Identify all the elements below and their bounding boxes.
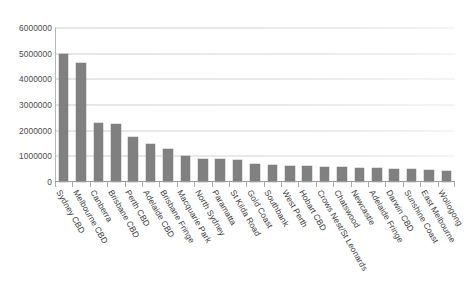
x-axis-tick [177, 182, 194, 187]
bar [198, 159, 208, 182]
x-axis-label-cell: East Melbourne [420, 188, 437, 303]
x-axis-label-cell: Sydney CBD [55, 188, 72, 303]
x-axis-label-cell: Melbourne CBD [72, 188, 89, 303]
x-axis-label-cell: Hobart CBD [298, 188, 315, 303]
bar [215, 159, 225, 182]
y-axis-line [55, 28, 56, 182]
x-axis-tick [264, 182, 281, 187]
bar [94, 123, 104, 182]
x-axis-label-cell: Adelaide CBD [142, 188, 159, 303]
x-axis-tick [438, 182, 455, 187]
x-axis-label-cell: Gold Coast [246, 188, 263, 303]
bar-slot [264, 28, 281, 182]
bar-slot [281, 28, 298, 182]
y-axis-tick-label: 6000000 [19, 23, 52, 33]
bar-slot [55, 28, 72, 182]
bar-slot [159, 28, 176, 182]
bar [337, 167, 347, 182]
bar [355, 168, 365, 182]
x-axis-tick [368, 182, 385, 187]
bar-slot [438, 28, 455, 182]
bar [320, 167, 330, 182]
x-axis-tick [212, 182, 229, 187]
x-axis-tick [351, 182, 368, 187]
x-axis-label-cell: Newcastle [351, 188, 368, 303]
bar-series [55, 28, 455, 182]
x-axis-tick [142, 182, 159, 187]
bar [285, 166, 295, 182]
bar [389, 169, 399, 182]
x-axis-tick [90, 182, 107, 187]
bar-slot [142, 28, 159, 182]
bar [163, 149, 173, 182]
x-axis-label-cell: Macquarie Park [177, 188, 194, 303]
y-axis-tick-label: 4000000 [19, 74, 52, 84]
y-axis-tick-label: 0 [47, 177, 52, 187]
bar-slot [351, 28, 368, 182]
x-axis-tick [316, 182, 333, 187]
x-axis-tick [281, 182, 298, 187]
x-axis-label-cell: West Perth [281, 188, 298, 303]
x-axis-tick [194, 182, 211, 187]
bar-chart: 6000000500000040000003000000200000010000… [0, 0, 475, 307]
x-axis-label-cell: Paramatta [212, 188, 229, 303]
x-axis-tick [298, 182, 315, 187]
x-axis-tick [55, 182, 72, 187]
x-axis-label-cell: Brisbane Fringe [159, 188, 176, 303]
x-axis-label-cell: St Kilda Road [229, 188, 246, 303]
x-axis-tick [125, 182, 142, 187]
bar [128, 137, 138, 182]
bar [181, 156, 191, 182]
bar-slot [90, 28, 107, 182]
x-axis-label-cell: Darwin CBD [385, 188, 402, 303]
bar [59, 54, 69, 182]
x-axis-tick [159, 182, 176, 187]
bar-slot [298, 28, 315, 182]
plot-area [55, 28, 455, 182]
x-axis-tick [333, 182, 350, 187]
x-axis-category-labels: Sydney CBDMelbourne CBDCanberraBrisbane … [55, 188, 455, 303]
bar [268, 165, 278, 182]
bar [146, 144, 156, 183]
y-axis-tick-label: 3000000 [19, 100, 52, 110]
x-axis-label-cell: Wollogong [438, 188, 455, 303]
y-axis-tick-label: 5000000 [19, 49, 52, 59]
x-axis-label-cell: Southbank [264, 188, 281, 303]
y-axis-tick-label: 1000000 [19, 151, 52, 161]
x-axis-tick [420, 182, 437, 187]
y-axis-tick-label: 2000000 [19, 126, 52, 136]
x-axis-label-cell: Canberra [90, 188, 107, 303]
bar-slot [212, 28, 229, 182]
bar [372, 168, 382, 182]
bar-slot [107, 28, 124, 182]
bar-slot [246, 28, 263, 182]
bar-slot [385, 28, 402, 182]
x-axis-tick [72, 182, 89, 187]
bar [233, 160, 243, 182]
x-axis-label-cell: Adelaide Fringe [368, 188, 385, 303]
x-axis-category-label: Wollogong [437, 188, 466, 228]
x-axis-label-cell: Sunshine Coast [403, 188, 420, 303]
x-axis-tick [403, 182, 420, 187]
x-axis-tick [246, 182, 263, 187]
x-axis-tick [229, 182, 246, 187]
bar-slot [72, 28, 89, 182]
bar [302, 166, 312, 182]
x-axis-tick [385, 182, 402, 187]
bar-slot [125, 28, 142, 182]
x-axis-label-cell: North Sydney [194, 188, 211, 303]
x-axis-tick [107, 182, 124, 187]
x-axis-ticks [55, 182, 455, 187]
bar-slot [177, 28, 194, 182]
bar-slot [333, 28, 350, 182]
x-axis-label-cell: Perth CBD [125, 188, 142, 303]
bar [76, 63, 86, 182]
x-axis-label-cell: Crows Nest/St Leonards [316, 188, 333, 303]
bar-slot [194, 28, 211, 182]
bar-slot [368, 28, 385, 182]
bar [250, 164, 260, 182]
y-axis: 6000000500000040000003000000200000010000… [0, 0, 52, 307]
bar-slot [229, 28, 246, 182]
bar-slot [316, 28, 333, 182]
bar [111, 124, 121, 182]
